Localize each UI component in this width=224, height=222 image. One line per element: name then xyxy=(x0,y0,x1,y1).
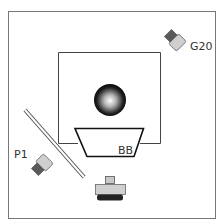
bottom-detector xyxy=(96,177,126,201)
optical-setup-diagram: BB G20 P1 xyxy=(0,0,224,222)
sphere-target xyxy=(94,84,126,116)
camera-p1-label: P1 xyxy=(14,148,28,161)
detector-base-icon xyxy=(97,195,123,201)
camera-g20 xyxy=(163,28,186,51)
camera-g20-label: G20 xyxy=(190,40,213,53)
detector-body-icon xyxy=(96,185,126,195)
detector-top-square-icon xyxy=(106,177,115,184)
blackbody-trapezoid xyxy=(75,129,144,157)
blackbody-label: BB xyxy=(118,144,133,157)
camera-p1 xyxy=(30,154,53,177)
